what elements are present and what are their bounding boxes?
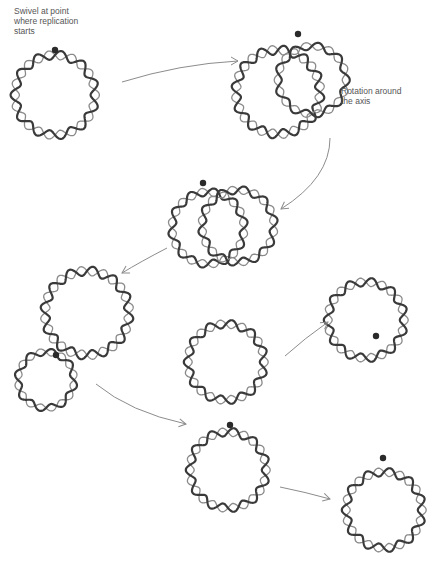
arrow-5-to-lower — [280, 487, 331, 503]
arrow-shaft — [280, 487, 330, 499]
strand-dark — [11, 51, 98, 139]
process-arrows — [96, 57, 331, 503]
arrow-3-to-4 — [120, 248, 167, 276]
rotation-label-line-2: the axis — [341, 96, 402, 106]
swivel-label: Swivel at point where replication starts — [14, 6, 78, 36]
stage-1-parent-circle — [11, 51, 100, 139]
swivel-dot-icon — [200, 180, 206, 186]
swivel-dot-icon — [295, 31, 301, 37]
swivel-label-line-1: Swivel at point — [14, 6, 78, 16]
arrow-shaft — [285, 322, 328, 356]
arrow-4-to-5 — [96, 384, 187, 428]
strand-light — [41, 267, 134, 360]
arrow-1-to-2 — [122, 57, 238, 82]
arrow-5-to-upper — [285, 319, 330, 356]
arrow-2-to-3 — [279, 138, 330, 212]
rotation-label: Rotation around the axis — [341, 86, 402, 106]
rotation-label-line-1: Rotation around — [341, 86, 402, 96]
strand-dark — [184, 320, 267, 404]
strand-dark — [186, 428, 269, 512]
stage-4-small-loop — [15, 349, 77, 411]
swivel-dot-icon — [53, 352, 59, 358]
arrow-shaft — [281, 138, 330, 209]
stage-5-upper-loop — [184, 320, 268, 404]
strand-light — [15, 349, 77, 411]
strand-dark — [342, 468, 425, 552]
stage-5-lower-loop — [186, 428, 270, 512]
strand-dark — [15, 349, 77, 411]
arrow-shaft — [122, 61, 238, 82]
dna-loops — [11, 43, 427, 552]
swivel-dot-icon — [373, 333, 379, 339]
strand-dark — [41, 267, 134, 360]
strand-dark — [232, 46, 325, 139]
diagram-canvas — [0, 0, 437, 561]
swivel-label-line-2: where replication — [14, 16, 78, 26]
swivel-dot-icon — [227, 422, 233, 428]
daughter-upper — [324, 278, 408, 362]
swivel-dot-icon — [380, 455, 386, 461]
arrow-shaft — [122, 248, 167, 273]
strand-light — [232, 46, 325, 139]
strand-dark — [324, 278, 407, 362]
swivel-dot-icon — [52, 47, 58, 53]
stage-2-rotation-loop-main — [232, 46, 325, 139]
swivel-label-line-3: starts — [14, 26, 78, 36]
stage-4-large-loop — [41, 267, 134, 360]
daughter-lower — [342, 468, 426, 552]
arrow-shaft — [96, 384, 186, 424]
